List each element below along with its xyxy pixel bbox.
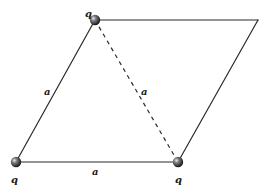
charge-bottom-left-icon [11,157,21,167]
labels: aaaqqq [11,8,182,185]
rhombus-diagram: aaaqqq [0,0,265,196]
edge-left-side [16,20,95,162]
charge-bottom-right-icon [173,157,183,167]
charge-label-top-left: q [85,8,92,19]
charge-label-bottom-right: q [175,174,182,185]
edges [16,20,258,162]
edge-diagonal [95,20,178,162]
edge-right-side [178,20,258,162]
edge-label-left-side: a [44,86,50,97]
edge-label-bottom-side: a [92,166,98,177]
charge-label-bottom-left: q [11,174,18,185]
edge-label-diagonal: a [141,86,147,97]
charges [11,15,183,167]
